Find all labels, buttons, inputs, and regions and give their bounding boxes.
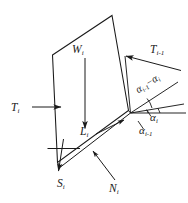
- base-line-lower: [61, 113, 131, 167]
- normal-force-arrow: [93, 151, 115, 180]
- label-normal-force: Ni: [109, 183, 119, 196]
- weight-symbol: W: [72, 43, 82, 55]
- label-shear-force: Si: [57, 178, 65, 191]
- alpha-i-subscript: i: [156, 117, 158, 124]
- Ti1-arrow-shaft: [126, 56, 181, 71]
- weight-subscript: i: [82, 49, 84, 57]
- normal-force-symbol: N: [109, 182, 117, 194]
- alpha-i-minus-1-subscript: i-1: [145, 130, 153, 137]
- label-interslice-force-right: Ti-1: [150, 44, 164, 57]
- base-length-subscript: i: [87, 131, 89, 139]
- label-interslice-force-left: Ti: [11, 102, 19, 115]
- shear-force-arrow: [48, 139, 81, 171]
- interslice-left-subscript: i: [18, 107, 20, 115]
- normal-force-subscript: i: [117, 188, 119, 196]
- slice-polygon: [53, 16, 129, 163]
- label-base-length: Li: [80, 126, 88, 139]
- shear-force-subscript: i: [63, 183, 65, 191]
- slice-free-body-diagram: Wi Ti-1 Ti Li Si Ni αi αi-1 αi-1−αi: [0, 0, 188, 203]
- label-weight-force: Wi: [72, 44, 84, 57]
- interslice-right-arrow: [126, 56, 181, 71]
- alpha-i-arc: [158, 108, 160, 113]
- slice-body-outline: [53, 16, 129, 163]
- Li-arrow-shaft: [96, 120, 124, 134]
- label-angle-alpha-i-minus-1: αi-1: [139, 125, 152, 138]
- interslice-right-subscript: i-1: [157, 49, 165, 57]
- Ni-arrow-shaft: [93, 151, 115, 180]
- diagram-canvas: [0, 0, 188, 203]
- base-length-arrow: [96, 120, 124, 134]
- slip-surface-base: [58, 111, 131, 168]
- label-angle-alpha-i: αi: [150, 112, 158, 125]
